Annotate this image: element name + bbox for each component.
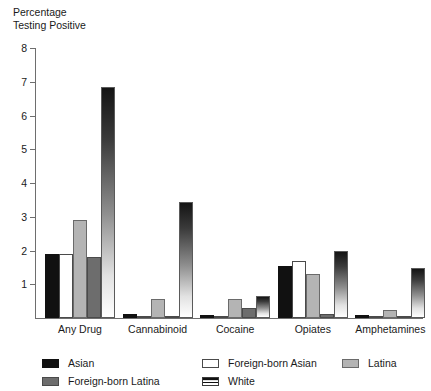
bar-group bbox=[355, 48, 425, 318]
bar bbox=[179, 202, 193, 318]
legend-label: Foreign-born Latina bbox=[68, 375, 160, 387]
y-axis-tick-label: 7 bbox=[21, 76, 27, 88]
bar bbox=[165, 316, 179, 318]
bar bbox=[59, 254, 73, 318]
x-axis-category-label: Cocaine bbox=[216, 323, 255, 335]
bar bbox=[355, 315, 369, 318]
y-axis-tick-label: 3 bbox=[21, 211, 27, 223]
legend-swatch-white bbox=[202, 377, 219, 386]
x-axis-category-label: Amphetamines bbox=[355, 323, 425, 335]
legend-label: White bbox=[228, 375, 255, 387]
y-axis-tick-label: 2 bbox=[21, 245, 27, 257]
y-axis-tick-mark bbox=[30, 217, 35, 218]
x-axis-category-label: Any Drug bbox=[58, 323, 102, 335]
bar bbox=[242, 308, 256, 318]
y-axis-title-line1: Percentage bbox=[13, 6, 67, 18]
bar bbox=[278, 266, 292, 318]
legend-item: White bbox=[202, 374, 317, 388]
legend-column-2: Foreign-born AsianWhite bbox=[202, 356, 317, 391]
bar-group bbox=[278, 48, 348, 318]
legend-item: Latina bbox=[342, 356, 397, 370]
bar bbox=[87, 257, 101, 318]
y-axis-tick-mark bbox=[30, 149, 35, 150]
bar bbox=[101, 87, 115, 318]
y-axis-tick-label: 4 bbox=[21, 177, 27, 189]
y-axis-tick-mark bbox=[30, 251, 35, 252]
bar-chart: PercentageTesting Positive 87654321 Any … bbox=[0, 0, 431, 391]
y-axis-tick-label: 1 bbox=[21, 278, 27, 290]
bar bbox=[228, 299, 242, 318]
x-axis-category-label: Opiates bbox=[295, 323, 331, 335]
bar bbox=[383, 310, 397, 318]
legend-column-1: AsianForeign-born Latina bbox=[42, 356, 160, 391]
bar-group bbox=[200, 48, 270, 318]
legend-swatch-fb-latina bbox=[42, 377, 59, 386]
legend-swatch-latina bbox=[342, 359, 359, 368]
y-axis-tick-label: 8 bbox=[21, 42, 27, 54]
legend-item: Asian bbox=[42, 356, 160, 370]
bar bbox=[292, 261, 306, 318]
bar bbox=[45, 254, 59, 318]
x-axis-category-label: Cannabinoid bbox=[128, 323, 187, 335]
bar bbox=[334, 251, 348, 318]
bar-group bbox=[123, 48, 193, 318]
bar bbox=[320, 314, 334, 318]
bar bbox=[214, 316, 228, 318]
bar bbox=[73, 220, 87, 318]
legend-swatch-fb-asian bbox=[202, 359, 219, 368]
y-axis-tick-mark bbox=[30, 116, 35, 117]
y-axis-tick-label: 6 bbox=[21, 110, 27, 122]
legend-item: Foreign-born Asian bbox=[202, 356, 317, 370]
bar bbox=[200, 315, 214, 318]
bar bbox=[369, 316, 383, 318]
legend-label: Latina bbox=[368, 357, 397, 369]
plot-area: 87654321 bbox=[35, 48, 423, 318]
bar-group bbox=[45, 48, 115, 318]
y-axis-tick-mark bbox=[30, 48, 35, 49]
bar bbox=[411, 268, 425, 318]
legend-column-3: Latina bbox=[342, 356, 397, 374]
bar bbox=[256, 296, 270, 318]
y-axis-title: PercentageTesting Positive bbox=[13, 6, 86, 31]
bar bbox=[123, 314, 137, 318]
bar bbox=[306, 274, 320, 318]
y-axis-tick-label: 5 bbox=[21, 143, 27, 155]
x-axis-line bbox=[35, 318, 423, 319]
bar bbox=[397, 316, 411, 318]
bar bbox=[151, 299, 165, 318]
legend-swatch-asian bbox=[42, 359, 59, 368]
y-axis-tick-mark bbox=[30, 183, 35, 184]
legend-label: Asian bbox=[68, 357, 94, 369]
bar bbox=[137, 316, 151, 318]
y-axis-tick-mark bbox=[30, 82, 35, 83]
legend-item: Foreign-born Latina bbox=[42, 374, 160, 388]
legend-label: Foreign-born Asian bbox=[228, 357, 317, 369]
y-axis-tick-mark bbox=[30, 284, 35, 285]
y-axis-title-line2: Testing Positive bbox=[13, 19, 86, 31]
